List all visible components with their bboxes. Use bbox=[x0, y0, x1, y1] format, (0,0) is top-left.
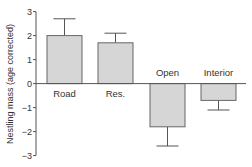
bar-road bbox=[47, 36, 82, 84]
category-label: Road bbox=[53, 88, 76, 99]
y-tick-label: 0 bbox=[27, 79, 32, 89]
y-tick-label: −3 bbox=[22, 151, 32, 161]
bar-interior bbox=[201, 84, 236, 101]
y-axis-label: Nestling mass (age corrected) bbox=[5, 24, 15, 144]
bar-res bbox=[98, 43, 133, 84]
bar-chart: 3210−1−2−3 RoadRes.OpenInterior Nestling… bbox=[0, 0, 252, 167]
category-label: Res. bbox=[106, 88, 126, 99]
bars bbox=[47, 19, 236, 146]
category-label: Interior bbox=[204, 67, 234, 78]
y-tick-label: −1 bbox=[22, 103, 32, 113]
y-tick-label: −2 bbox=[22, 127, 32, 137]
y-tick-label: 1 bbox=[27, 55, 32, 65]
y-tick-label: 3 bbox=[27, 7, 32, 17]
category-label: Open bbox=[156, 67, 179, 78]
bar-open bbox=[150, 84, 185, 127]
y-axis: 3210−1−2−3 bbox=[22, 7, 36, 161]
y-tick-label: 2 bbox=[27, 31, 32, 41]
